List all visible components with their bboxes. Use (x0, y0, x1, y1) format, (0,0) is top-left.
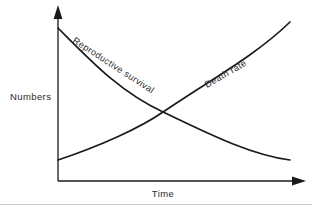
curve-label-death-rate: Death rate (203, 58, 248, 90)
arrow-up-icon (54, 5, 63, 19)
x-axis-label: Time (152, 188, 174, 199)
line-chart: Numbers Time Reproductive survival Death… (0, 0, 312, 206)
arrow-right-icon (292, 177, 306, 186)
figure-container: Numbers Time Reproductive survival Death… (0, 0, 312, 206)
y-axis-label: Numbers (10, 91, 51, 102)
curve-death-rate (58, 22, 290, 160)
curve-label-reproductive-survival: Reproductive survival (71, 35, 156, 95)
